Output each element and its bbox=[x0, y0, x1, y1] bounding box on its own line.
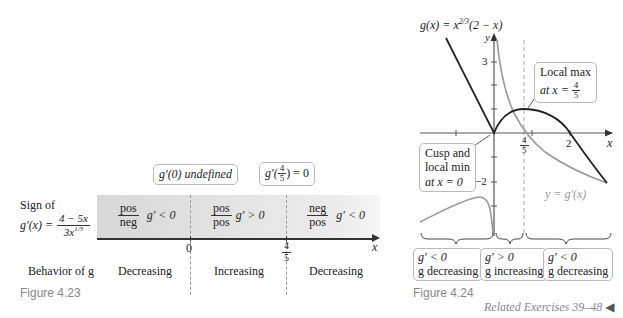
frac-den: pos bbox=[213, 216, 230, 229]
box-sign: g′ > 0 bbox=[485, 250, 543, 264]
callout-cusp-local-min: Cusp and local min at x = 0 bbox=[419, 143, 476, 192]
y-tick-3: 3 bbox=[482, 55, 488, 67]
box-sign: g′ < 0 bbox=[548, 250, 608, 264]
sign-row-label: Sign of bbox=[20, 198, 55, 213]
interval-box-2: g′ > 0 g increasing bbox=[480, 248, 548, 281]
box-behavior: g decreasing bbox=[418, 264, 478, 278]
frac-den: 5 bbox=[280, 174, 285, 183]
callout-g-prime-4-5-zero: g′(45) = 0 bbox=[259, 162, 315, 186]
frac-den: pos bbox=[309, 216, 326, 229]
tick-label-0: 0 bbox=[186, 241, 192, 256]
behavior-interval-1: Decreasing bbox=[118, 264, 172, 279]
frac-den: neg bbox=[120, 216, 137, 229]
formula-denominator: 3x1/3 bbox=[64, 226, 83, 238]
frac-num: 4 bbox=[282, 241, 291, 253]
callout-local-max: Local max at x =45 bbox=[534, 62, 597, 103]
number-line bbox=[97, 238, 373, 240]
callout-suffix: ) = 0 bbox=[286, 166, 309, 180]
figure-caption-4-24: Figure 4.24 bbox=[413, 286, 474, 300]
related-exercises: Related Exercises 39–48 ◀ bbox=[484, 300, 614, 315]
figure-caption-4-23: Figure 4.23 bbox=[20, 286, 81, 300]
callout-line3: at x = 0 bbox=[425, 175, 470, 189]
denominator-base: 3x bbox=[64, 225, 74, 237]
sign-text: g′ < 0 bbox=[336, 208, 365, 223]
box-behavior: g increasing bbox=[485, 264, 543, 278]
interval-2-fraction: pospos bbox=[211, 202, 232, 228]
denominator-exp: 1/3 bbox=[74, 225, 83, 233]
interval-3-fraction: negpos bbox=[307, 202, 328, 228]
frac-num: neg bbox=[307, 202, 328, 216]
frac-num: pos bbox=[118, 202, 139, 216]
box-behavior: g decreasing bbox=[548, 264, 608, 278]
callout-text: g′(0) undefined bbox=[159, 167, 232, 181]
x-tick-2: 2 bbox=[566, 137, 572, 149]
interval-2-sign: pospos g′ > 0 bbox=[211, 202, 264, 228]
callout-line1: Local max bbox=[540, 65, 591, 81]
frac-den: 5 bbox=[284, 253, 289, 264]
interval-1-sign: posneg g′ < 0 bbox=[118, 202, 175, 228]
x-tick-4-5: 45 bbox=[520, 136, 529, 156]
callout-g-prime-0-undefined: g′(0) undefined bbox=[153, 164, 238, 185]
callout-fraction: 45 bbox=[572, 81, 581, 101]
sign-text: g′ > 0 bbox=[236, 208, 265, 223]
callout-prefix: g′( bbox=[265, 166, 278, 180]
frac-den: 5 bbox=[574, 91, 579, 100]
callout-line2: local min bbox=[425, 160, 470, 174]
frac-den: 5 bbox=[522, 146, 527, 155]
callout-prefix: at x = bbox=[540, 83, 569, 99]
sign-text: g′ < 0 bbox=[147, 208, 176, 223]
formula-lhs: g′(x) = bbox=[20, 218, 53, 233]
tick-label-4-5: 45 bbox=[282, 241, 291, 263]
interval-1-fraction: posneg bbox=[118, 202, 139, 228]
related-exercises-text: Related Exercises 39–48 bbox=[484, 300, 602, 314]
end-marker-icon: ◀ bbox=[605, 300, 614, 314]
box-sign: g′ < 0 bbox=[418, 250, 478, 264]
interval-box-3: g′ < 0 g decreasing bbox=[543, 248, 613, 281]
behavior-interval-2: Increasing bbox=[214, 264, 264, 279]
interval-braces bbox=[390, 228, 623, 248]
y-tick-neg2: −2 bbox=[475, 175, 487, 187]
formula-fraction: 4 − 5x 3x1/3 bbox=[57, 213, 90, 238]
behavior-interval-3: Decreasing bbox=[309, 264, 363, 279]
interval-box-1: g′ < 0 g decreasing bbox=[413, 248, 483, 281]
callout-line1: Cusp and bbox=[425, 146, 470, 160]
x-axis-label: x bbox=[372, 240, 377, 255]
interval-3-sign: negpos g′ < 0 bbox=[307, 202, 365, 228]
callout-fraction: 45 bbox=[278, 164, 287, 184]
frac-num: pos bbox=[211, 202, 232, 216]
y-axis-label: y bbox=[485, 31, 490, 43]
x-axis-label-right: x bbox=[607, 136, 612, 151]
derivative-curve-label: y = g′(x) bbox=[545, 187, 586, 202]
behavior-row-label: Behavior of g bbox=[28, 264, 94, 279]
callout-line2: at x =45 bbox=[540, 81, 591, 101]
sign-row-formula: g′(x) = 4 − 5x 3x1/3 bbox=[20, 213, 90, 238]
